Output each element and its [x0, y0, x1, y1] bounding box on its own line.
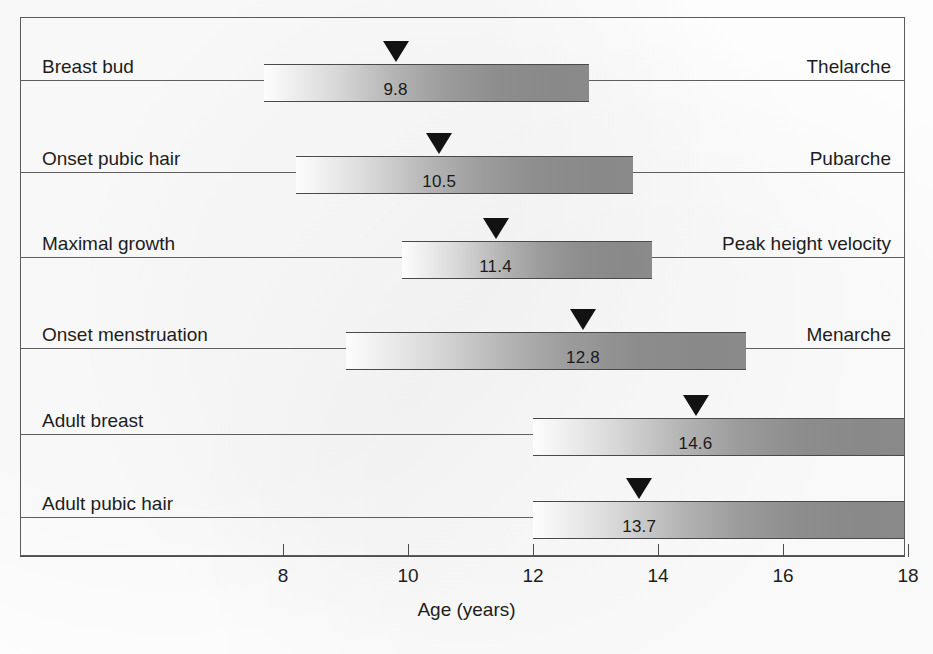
x-axis-tick-label: 14 — [647, 566, 668, 585]
range-bar — [533, 501, 904, 539]
range-bar — [296, 156, 634, 194]
x-axis-tick-label: 12 — [522, 566, 543, 585]
range-bar — [402, 241, 652, 279]
range-bar — [346, 332, 746, 370]
x-axis-tick-mark — [783, 544, 784, 557]
row-label-right: Pubarche — [810, 149, 891, 168]
bar-value-label: 11.4 — [479, 258, 512, 275]
x-axis-tick-mark — [408, 544, 409, 557]
row-label-left: Adult pubic hair — [42, 494, 173, 513]
median-marker-triangle — [683, 395, 709, 416]
median-marker-triangle — [570, 309, 596, 330]
median-marker-triangle — [383, 41, 409, 62]
row-label-right: Menarche — [807, 325, 892, 344]
bar-value-label: 14.6 — [679, 435, 713, 452]
bar-value-label: 12.8 — [566, 349, 600, 366]
median-marker-triangle — [626, 478, 652, 499]
x-axis-tick-label: 18 — [897, 566, 918, 585]
x-axis-tick-label: 8 — [278, 566, 289, 585]
x-axis-tick-mark — [533, 544, 534, 557]
median-marker-triangle — [426, 133, 452, 154]
median-marker-triangle — [483, 218, 509, 239]
x-axis-tick-label: 10 — [397, 566, 418, 585]
bar-value-label: 9.8 — [383, 81, 407, 98]
bar-value-label: 13.7 — [622, 518, 656, 535]
x-axis-title: Age (years) — [0, 600, 933, 619]
range-bar — [264, 64, 589, 102]
x-axis-tick-mark — [908, 544, 909, 557]
row-label-left: Onset menstruation — [42, 325, 208, 344]
x-axis-tick-mark — [658, 544, 659, 557]
x-axis-tick-label: 16 — [772, 566, 793, 585]
row-label-left: Breast bud — [42, 57, 134, 76]
row-label-right: Thelarche — [807, 57, 892, 76]
bar-value-label: 10.5 — [422, 173, 456, 190]
x-axis-line — [20, 556, 905, 557]
row-label-right: Peak height velocity — [722, 234, 891, 253]
row-label-left: Onset pubic hair — [42, 149, 180, 168]
row-label-left: Maximal growth — [42, 234, 175, 253]
x-axis-tick-mark — [283, 544, 284, 557]
row-label-left: Adult breast — [42, 411, 143, 430]
chart-figure: 9.8Breast budThelarche10.5Onset pubic ha… — [0, 0, 933, 654]
range-bar — [533, 418, 904, 456]
